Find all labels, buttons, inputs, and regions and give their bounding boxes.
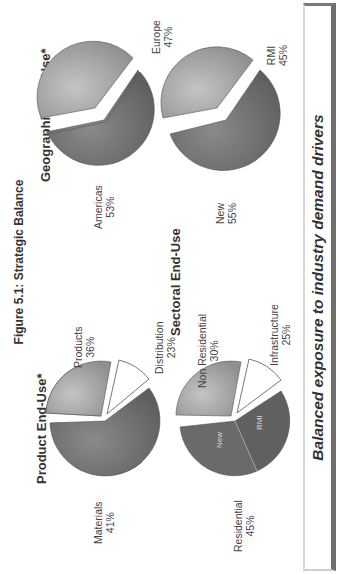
figure-canvas: Figure 5.1: Strategic Balance Product En… [0,0,339,574]
sectoral-pie-title: Sectoral End-Use [168,228,183,336]
summary-banner: Balanced exposure to industry demand dri… [303,3,336,571]
geographic-pie [40,54,160,174]
label-infrastructure: Infrastructure25% [268,304,292,366]
label-new: New55% [214,203,238,224]
label-americas: Americas53% [92,185,116,229]
inner-label-rmi: RMI [255,415,264,430]
banner-text: Balanced exposure to industry demand dri… [309,114,327,460]
label-rmi: RMI45% [265,45,289,66]
sectoral-pie: New RMI [174,358,294,478]
label-residential: Residential45% [232,500,256,552]
inner-label-new: New [215,432,224,448]
label-europe: Europe47% [150,20,174,54]
figure-title: Figure 5.1: Strategic Balance [12,0,26,574]
product-pie [44,358,164,478]
label-materials: Materials41% [92,501,116,544]
label-non-residential: Non Residential30% [196,314,220,388]
building-pie [162,54,282,174]
label-products: Products36% [72,327,96,368]
